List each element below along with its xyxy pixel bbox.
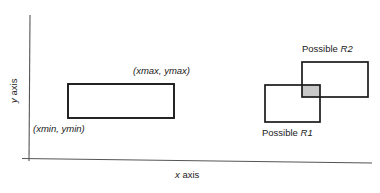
y-axis-line bbox=[29, 15, 30, 161]
rectangle-r1-label-prefix: Possible bbox=[262, 127, 301, 138]
rectangle-r2-label-prefix: Possible bbox=[302, 43, 341, 54]
y-axis-label-symbol: y bbox=[8, 98, 19, 103]
x-axis-label-text: axis bbox=[180, 169, 200, 180]
bounding-box-min-corner-label: (xmin, ymin) bbox=[33, 124, 85, 134]
diagram-canvas bbox=[0, 0, 380, 193]
x-axis-line bbox=[22, 159, 372, 164]
x-axis-label: x axis bbox=[175, 170, 199, 180]
bounding-box-max-corner-label: (xmax, ymax) bbox=[133, 66, 190, 76]
intersection-region bbox=[302, 85, 320, 97]
y-axis-label: y axis bbox=[9, 69, 19, 113]
rectangle-r2-label: Possible R2 bbox=[302, 44, 353, 54]
bounding-rectangle bbox=[68, 84, 174, 118]
rectangle-r2-label-name: R2 bbox=[341, 43, 353, 54]
rectangle-intersection-diagram: (xmax, ymax) (xmin, ymin) Possible R2 Po… bbox=[0, 0, 380, 193]
rectangle-r1-label-name: R1 bbox=[301, 127, 313, 138]
y-axis-label-text: axis bbox=[8, 79, 19, 99]
rectangle-r1-label: Possible R1 bbox=[262, 128, 313, 138]
